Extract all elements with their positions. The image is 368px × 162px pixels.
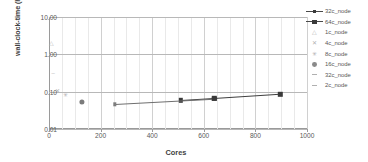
gridline-major-horizontal	[49, 129, 307, 130]
legend-item[interactable]: 16c_node	[306, 59, 368, 70]
chart-legend: 32c_node64c_node△1c_node✕4c_node✳8c_node…	[306, 6, 368, 91]
gridline-minor-vertical	[165, 17, 166, 129]
legend-marker-dash-icon	[306, 70, 323, 80]
x-tick-label: 200	[88, 132, 114, 139]
gridline-minor-vertical	[281, 17, 282, 129]
legend-item[interactable]: 64c_node	[306, 17, 368, 28]
legend-label: 32c_node	[325, 72, 351, 78]
gridline-minor-vertical	[294, 17, 295, 129]
gridline-minor-vertical	[268, 17, 269, 129]
legend-item[interactable]: 32c_node	[306, 6, 368, 17]
x-tick-label: 1000	[294, 132, 320, 139]
x-tick-mark	[49, 129, 50, 132]
gridline-minor-vertical	[178, 17, 179, 129]
x-tick-label: 0	[36, 132, 62, 139]
legend-item[interactable]: ✳8c_node	[306, 48, 368, 59]
gridline-major-vertical	[204, 17, 205, 129]
x-tick-mark	[255, 129, 256, 132]
gridline-minor-vertical	[62, 17, 63, 129]
legend-marker-circle-icon	[306, 59, 323, 69]
legend-glyph: ✳	[312, 51, 317, 57]
data-point	[212, 97, 216, 101]
y-tick-label: 0.10	[31, 88, 57, 95]
y-tick-label: 10.00	[31, 14, 57, 21]
legend-marker-asterisk-icon: ✳	[306, 49, 323, 59]
legend-label: 2c_node	[325, 82, 348, 88]
gridline-major-vertical	[152, 17, 153, 129]
gridline-minor-vertical	[114, 17, 115, 129]
plot-area: △✕✳–	[49, 17, 307, 129]
gridline-major-vertical	[101, 17, 102, 129]
gridline-major-horizontal	[49, 54, 307, 55]
data-point: ✳	[63, 92, 68, 98]
gridline-minor-vertical	[139, 17, 140, 129]
data-point	[113, 103, 116, 106]
gridline-minor-vertical	[243, 17, 244, 129]
gridline-minor-vertical	[217, 17, 218, 129]
legend-label: 16c_node	[325, 61, 351, 67]
gridline-major-horizontal	[49, 92, 307, 93]
legend-label: 8c_node	[325, 51, 348, 57]
legend-marker-x-icon: ✕	[306, 38, 323, 48]
legend-marker-dash-icon	[306, 80, 323, 90]
legend-item[interactable]: 2c_node	[306, 80, 368, 91]
legend-circle	[312, 62, 317, 67]
gridline-minor-vertical	[126, 17, 127, 129]
legend-item[interactable]: △1c_node	[306, 27, 368, 38]
y-axis-title: wall-clock-time (hours)	[13, 0, 25, 73]
x-tick-mark	[307, 129, 308, 132]
x-tick-mark	[204, 129, 205, 132]
legend-square	[312, 20, 316, 24]
legend-item[interactable]: 32c_node	[306, 70, 368, 81]
gridline-minor-vertical	[191, 17, 192, 129]
x-tick-label: 800	[242, 132, 268, 139]
legend-dash	[312, 85, 317, 86]
chart-container: wall-clock-time (hours) Cores △✕✳– 10.00…	[0, 0, 368, 162]
x-tick-label: 400	[139, 132, 165, 139]
x-tick-mark	[101, 129, 102, 132]
legend-label: 4c_node	[325, 40, 348, 46]
legend-square	[313, 10, 317, 14]
x-tick-mark	[152, 129, 153, 132]
legend-label: 64c_node	[325, 19, 351, 25]
gridline-minor-vertical	[88, 17, 89, 129]
data-point: △	[49, 40, 54, 46]
gridline-minor-vertical	[230, 17, 231, 129]
legend-label: 32c_node	[325, 8, 351, 14]
series-line-segment	[214, 94, 280, 99]
x-tick-label: 600	[191, 132, 217, 139]
legend-glyph: △	[312, 29, 317, 35]
x-axis-title: Cores	[45, 148, 307, 157]
gridline-minor-vertical	[75, 17, 76, 129]
legend-dash	[312, 74, 317, 75]
legend-label: 1c_node	[325, 29, 348, 35]
legend-marker-square-line-icon	[306, 17, 323, 27]
data-point: –	[51, 70, 54, 76]
data-point	[278, 92, 282, 96]
legend-marker-square-line-icon	[306, 6, 323, 16]
legend-item[interactable]: ✕4c_node	[306, 38, 368, 49]
y-axis-line	[49, 17, 50, 129]
data-point	[79, 99, 84, 104]
legend-marker-triangle-icon: △	[306, 27, 323, 37]
y-tick-label: 1.00	[31, 51, 57, 58]
gridline-major-horizontal	[49, 17, 307, 18]
gridline-major-vertical	[255, 17, 256, 129]
legend-glyph: ✕	[312, 40, 317, 46]
